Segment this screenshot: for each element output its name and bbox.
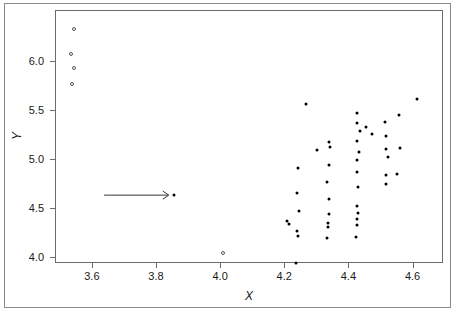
data-point [384, 173, 387, 176]
y-axis-tick [50, 61, 55, 62]
data-point [370, 132, 373, 135]
data-point [328, 198, 331, 201]
x-axis-tick-label: 4.0 [212, 270, 227, 282]
x-axis-tick [220, 263, 221, 268]
data-point [69, 52, 73, 56]
x-axis-tick [284, 263, 285, 268]
data-point [398, 114, 401, 117]
data-point [416, 98, 419, 101]
y-axis-tick-label: 5.5 [29, 104, 44, 116]
data-point [385, 148, 388, 151]
x-axis-tick-label: 3.6 [84, 270, 99, 282]
data-point [296, 166, 299, 169]
x-axis-tick [413, 263, 414, 268]
data-point [172, 194, 175, 197]
data-point [356, 217, 359, 220]
x-axis-tick-label: 3.8 [148, 270, 163, 282]
x-axis-tick-label: 4.4 [341, 270, 356, 282]
data-point [327, 226, 330, 229]
y-axis-tick-label: 4.0 [29, 251, 44, 263]
data-point [72, 66, 76, 70]
x-axis-tick-label: 4.6 [405, 270, 420, 282]
data-point [398, 147, 401, 150]
x-axis-tick-label: 4.2 [277, 270, 292, 282]
data-point [365, 125, 368, 128]
y-axis-tick [50, 208, 55, 209]
data-point [396, 172, 399, 175]
data-point [221, 251, 225, 255]
x-axis-tick [348, 263, 349, 268]
data-point [288, 223, 291, 226]
data-points-layer [56, 11, 442, 262]
data-point [329, 146, 332, 149]
data-point [357, 211, 360, 214]
y-axis-tick [50, 159, 55, 160]
data-point [70, 82, 74, 86]
x-axis-label: X [245, 289, 253, 303]
data-point [298, 209, 301, 212]
data-point [356, 170, 359, 173]
data-point [294, 261, 297, 264]
data-point [326, 222, 329, 225]
x-axis-tick [92, 263, 93, 268]
data-point [356, 121, 359, 124]
data-point [385, 183, 388, 186]
data-point [355, 158, 358, 161]
data-point [356, 140, 359, 143]
data-point [355, 236, 358, 239]
data-point [356, 224, 359, 227]
y-axis-tick-label: 6.0 [29, 55, 44, 67]
y-axis-tick-label: 4.5 [29, 202, 44, 214]
data-point [296, 192, 299, 195]
scatter-plot-figure: 3.63.84.04.24.44.64.04.55.05.56.0 X Y [0, 0, 456, 314]
data-point [327, 141, 330, 144]
data-point [355, 112, 358, 115]
data-point [295, 230, 298, 233]
data-point [386, 156, 389, 159]
x-axis-tick [156, 263, 157, 268]
data-point [327, 212, 330, 215]
data-point [356, 204, 359, 207]
data-point [316, 149, 319, 152]
data-point [285, 219, 288, 222]
data-point [357, 186, 360, 189]
data-point [326, 237, 329, 240]
y-axis-tick [50, 110, 55, 111]
data-point [296, 235, 299, 238]
data-point [384, 134, 387, 137]
data-point [325, 181, 328, 184]
data-point [358, 129, 361, 132]
y-axis-label: Y [10, 132, 24, 140]
plot-panel [55, 10, 443, 263]
data-point [304, 103, 307, 106]
y-axis-tick [50, 257, 55, 258]
data-point [383, 120, 386, 123]
y-axis-tick-label: 5.0 [29, 153, 44, 165]
data-point [327, 163, 330, 166]
data-point [358, 151, 361, 154]
data-point [72, 27, 76, 31]
